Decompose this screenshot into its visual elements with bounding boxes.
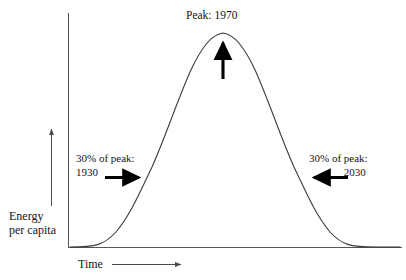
left-annotation-line2: 1930 <box>76 167 135 179</box>
right-annotation: 30% of peak: 2030 <box>309 153 368 178</box>
y-axis-label-line1: Energy <box>9 209 43 223</box>
y-axis-label: Energy per capita <box>9 210 56 236</box>
energy-per-capita-bell-curve <box>0 0 406 280</box>
bell-curve-path <box>70 33 400 247</box>
right-annotation-line2: 2030 <box>309 167 368 179</box>
x-axis-label: Time <box>78 258 103 271</box>
right-annotation-line1: 30% of peak: <box>309 152 368 164</box>
y-axis-label-line2: per capita <box>9 224 56 237</box>
left-annotation: 30% of peak: 1930 <box>76 153 135 178</box>
peak-label: Peak: 1970 <box>186 9 237 21</box>
figure-canvas: Peak: 1970 30% of peak: 1930 30% of peak… <box>0 0 406 280</box>
left-annotation-line1: 30% of peak: <box>76 152 135 164</box>
